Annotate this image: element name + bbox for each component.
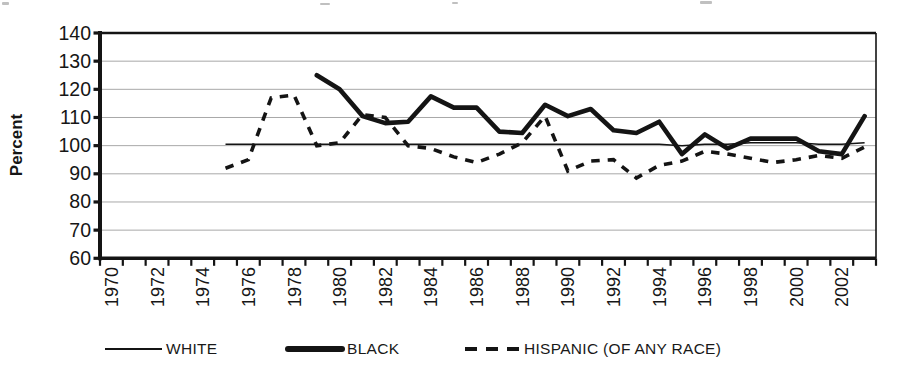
- y-tick-110: [94, 116, 101, 119]
- y-tick-120: [94, 88, 101, 91]
- legend-label-white: WHITE: [166, 340, 217, 358]
- x-tick-label-1988: 1988: [513, 267, 533, 307]
- y-tick-90: [94, 172, 101, 175]
- y-tick-label-110: 110: [60, 106, 91, 128]
- y-tick-70: [94, 229, 101, 232]
- axes: 1401301201101009080706019701972197419761…: [58, 22, 876, 308]
- x-tick-label-1978: 1978: [285, 267, 305, 307]
- line-chart: 1401301201101009080706019701972197419761…: [0, 0, 904, 332]
- legend-label-black: BLACK: [347, 340, 399, 358]
- x-tick-label-2002: 2002: [832, 267, 852, 307]
- y-tick-label-60: 60: [69, 247, 91, 269]
- y-tick-80: [94, 200, 101, 203]
- y-tick-label-90: 90: [69, 162, 91, 184]
- x-tick-label-1994: 1994: [650, 267, 670, 307]
- x-tick-label-1972: 1972: [148, 267, 168, 307]
- y-tick-label-80: 80: [69, 190, 91, 212]
- legend-label-hispanic: HISPANIC (OF ANY RACE): [524, 340, 721, 358]
- legend-line-sample-white: [105, 348, 162, 350]
- legend-line-sample-black: [285, 346, 345, 352]
- x-tick-label-1990: 1990: [558, 267, 578, 307]
- x-tick-label-1976: 1976: [239, 267, 259, 307]
- x-tick-label-1998: 1998: [741, 267, 761, 307]
- y-tick-130: [94, 60, 101, 63]
- x-tick-label-1986: 1986: [467, 267, 487, 307]
- x-tick-label-1982: 1982: [376, 267, 396, 307]
- x-tick-label-1970: 1970: [102, 267, 122, 307]
- y-tick-label-130: 130: [58, 50, 91, 72]
- x-tick-label-1980: 1980: [330, 267, 350, 307]
- y-tick-label-120: 120: [58, 78, 91, 100]
- x-tick-label-1996: 1996: [695, 267, 715, 307]
- x-tick-label-1984: 1984: [421, 267, 441, 307]
- x-tick-label-2000: 2000: [787, 267, 807, 307]
- x-tick-label-1974: 1974: [193, 267, 213, 307]
- y-tick-140: [94, 31, 101, 34]
- legend: WHITE BLACK HISPANIC (OF ANY RACE): [0, 334, 904, 364]
- scanned-chart-page: Percent 14013012011010090807060197019721…: [0, 0, 904, 371]
- legend-line-sample-hispanic: [465, 347, 519, 351]
- y-tick-100: [94, 144, 101, 147]
- y-tick-label-70: 70: [69, 219, 91, 241]
- gridlines: [100, 61, 876, 230]
- y-tick-label-140: 140: [58, 22, 91, 44]
- y-tick-label-100: 100: [58, 134, 91, 156]
- x-tick-label-1992: 1992: [604, 267, 624, 307]
